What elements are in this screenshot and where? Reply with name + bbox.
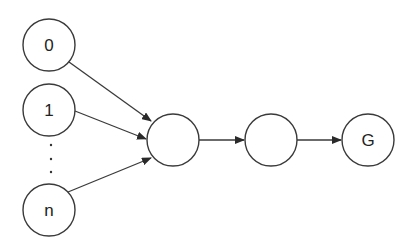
edges <box>68 62 341 192</box>
node-label: 1 <box>44 101 53 120</box>
node-g: G <box>342 114 394 166</box>
node-label: 0 <box>44 36 53 55</box>
graph-diagram: 01nG <box>0 0 413 252</box>
node-label: n <box>44 201 53 220</box>
node-n0: 0 <box>23 19 75 71</box>
ellipsis-dot <box>50 158 52 160</box>
vertical-ellipsis <box>50 144 52 173</box>
node-n1: 1 <box>23 84 75 136</box>
ellipsis-dot <box>50 144 52 146</box>
node-circle <box>245 114 297 166</box>
ellipsis-dot <box>50 171 52 173</box>
node-h1 <box>147 114 199 166</box>
edge-nn-to-h1 <box>68 158 151 192</box>
nodes: 01nG <box>23 19 394 236</box>
edge-n0-to-h1 <box>69 62 151 121</box>
edge-n1-to-h1 <box>75 111 146 139</box>
node-label: G <box>361 131 374 150</box>
node-h2 <box>245 114 297 166</box>
node-circle <box>147 114 199 166</box>
node-nn: n <box>23 184 75 236</box>
